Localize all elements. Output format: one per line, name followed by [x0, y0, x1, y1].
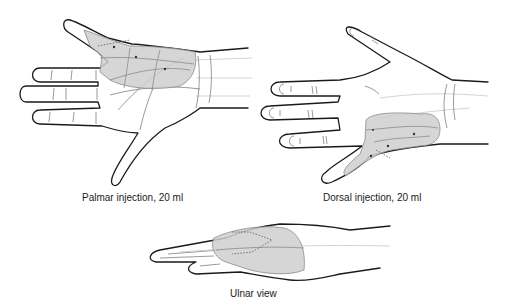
palmar-hand-drawing [20, 20, 252, 186]
hand-block-illustration [0, 0, 506, 306]
ulnar-hand-drawing [150, 224, 390, 280]
ulnar-caption: Ulnar view [230, 288, 277, 299]
dorsal-hand-drawing [261, 27, 488, 183]
palmar-caption: Palmar injection, 20 ml [82, 192, 183, 203]
dorsal-caption: Dorsal injection, 20 ml [323, 192, 421, 203]
